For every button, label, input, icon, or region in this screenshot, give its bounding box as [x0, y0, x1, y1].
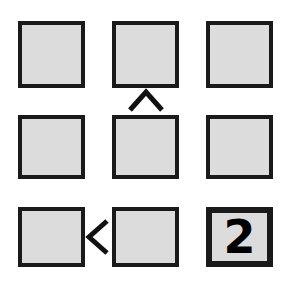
grid-cell-value: [116, 119, 175, 175]
grid-cell-r3c3[interactable]: 2: [206, 207, 273, 267]
grid-cell-value: [116, 211, 175, 263]
grid-cell-value: [22, 211, 81, 263]
grid-cell-r2c3[interactable]: [206, 115, 273, 179]
grid-cell-value: [116, 25, 175, 84]
grid-cell-r1c1[interactable]: [18, 21, 85, 88]
grid-cell-value: [210, 25, 269, 84]
grid-puzzle-canvas: 2: [0, 0, 295, 284]
chevron-left-icon: [86, 219, 108, 255]
grid-cell-r3c2[interactable]: [112, 207, 179, 267]
grid-cell-r3c1[interactable]: [18, 207, 85, 267]
grid-cell-value: 2: [212, 213, 267, 261]
grid-cell-value: [22, 119, 81, 175]
grid-cell-r2c1[interactable]: [18, 115, 85, 179]
grid-cell-r1c2[interactable]: [112, 21, 179, 88]
grid-cell-value: [210, 119, 269, 175]
grid-cell-r2c2[interactable]: [112, 115, 179, 179]
grid-cell-r1c3[interactable]: [206, 21, 273, 88]
chevron-up-icon: [128, 89, 164, 111]
grid-cell-value: [22, 25, 81, 84]
